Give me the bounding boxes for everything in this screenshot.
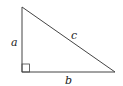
label-a: a bbox=[11, 36, 18, 49]
label-b: b bbox=[65, 74, 72, 86]
right-triangle-diagram: a c b bbox=[0, 0, 123, 86]
side-c-line bbox=[22, 7, 115, 72]
triangle bbox=[22, 7, 115, 72]
label-c: c bbox=[71, 29, 77, 42]
right-angle-marker bbox=[22, 64, 30, 72]
